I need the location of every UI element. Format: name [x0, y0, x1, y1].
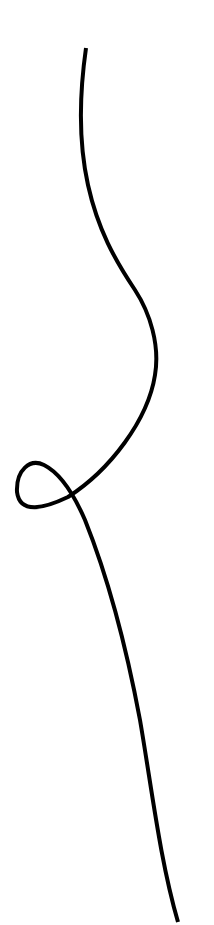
- line-drawing-canvas: [0, 0, 214, 925]
